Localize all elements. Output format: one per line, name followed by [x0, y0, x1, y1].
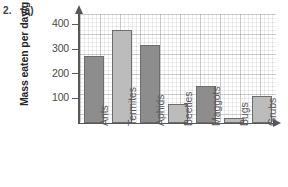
x-axis-label-bugs: Bugs — [238, 66, 250, 126]
bar-chart-figure: 2. (a) Mass eaten per day/g 100200300400… — [0, 0, 288, 187]
y-axis-tick-mark — [72, 73, 78, 74]
x-axis-label-termites: Termites — [126, 66, 138, 126]
x-axis-category-labels: AntsTermitesAphidsBeetlesMaggotsBugsGrub… — [80, 126, 276, 187]
y-axis-tick-label: 300 — [52, 42, 69, 54]
x-axis-label-beetles: Beetles — [182, 66, 194, 126]
y-axis-tick-mark — [72, 24, 78, 25]
y-axis-tick-label: 100 — [52, 91, 69, 103]
x-axis-label-aphids: Aphids — [154, 66, 166, 126]
y-axis-tick-label: 400 — [52, 17, 69, 29]
y-axis-ticks: 100200300400 — [0, 12, 78, 123]
y-axis-tick-label: 200 — [52, 67, 69, 79]
y-axis-tick-mark — [72, 98, 78, 99]
x-axis-label-maggots: Maggots — [210, 66, 222, 126]
y-axis-tick-mark — [72, 49, 78, 50]
x-axis-label-ants: Ants — [98, 66, 110, 126]
x-axis-label-grubs: Grubs — [266, 66, 278, 126]
